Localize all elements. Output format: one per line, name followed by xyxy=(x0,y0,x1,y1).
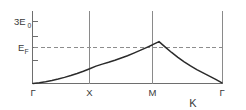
x-label-m-point: M xyxy=(149,87,157,98)
x-label-gamma-right: Γ xyxy=(219,87,224,98)
x-axis-title: K xyxy=(189,97,197,109)
y-label-3E0-main: 3E xyxy=(14,16,26,27)
y-label-EF-main: E xyxy=(18,42,24,53)
band-structure-figure: 3E 0 E F Γ X M Γ K xyxy=(0,0,246,110)
y-label-3E0-subscript: 0 xyxy=(28,22,32,29)
x-label-x-point: X xyxy=(86,87,93,98)
y-label-EF-subscript: F xyxy=(25,48,29,55)
x-label-gamma-left: Γ xyxy=(30,87,35,98)
plot-canvas: 3E 0 E F Γ X M Γ K xyxy=(0,0,246,110)
